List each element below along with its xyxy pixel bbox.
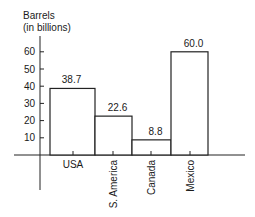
category-label: Mexico: [185, 160, 196, 192]
value-label: 22.6: [108, 102, 128, 113]
y-tick-label: 60: [24, 46, 36, 57]
bar-s-america: [95, 116, 132, 155]
bar-chart: 10203040506038.722.68.860.0USAS. America…: [0, 0, 255, 217]
category-label: Canada: [146, 160, 157, 195]
value-label: 60.0: [184, 38, 204, 49]
y-tick-label: 40: [24, 81, 36, 92]
value-label: 38.7: [62, 74, 82, 85]
y-tick-label: 20: [24, 115, 36, 126]
value-label: 8.8: [149, 126, 163, 137]
y-tick-label: 30: [24, 98, 36, 109]
category-label: S. America: [108, 160, 119, 209]
category-label: USA: [63, 159, 84, 170]
bar-mexico: [171, 52, 208, 155]
y-tick-label: 10: [24, 132, 36, 143]
bar-usa: [50, 88, 95, 155]
y-tick-label: 50: [24, 64, 36, 75]
